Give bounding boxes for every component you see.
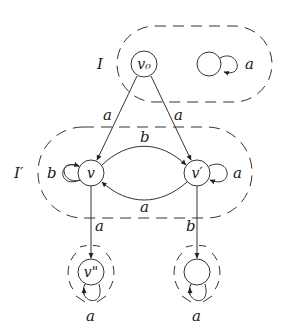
edge-vdprime-loop: [83, 284, 100, 301]
edge-vprime-ubottom-label: b: [186, 217, 196, 235]
node-u-bottom: [184, 259, 210, 285]
node-v-label: v: [87, 165, 95, 181]
node-v-dprime: v": [78, 259, 104, 285]
node-v-dprime-label: v": [84, 264, 98, 280]
edge-vprime-loop: [209, 164, 227, 182]
region-I-prime-label: I′: [13, 164, 24, 182]
edge-v0-vprime-label: a: [174, 106, 183, 124]
node-v-prime-label: v′: [191, 165, 203, 181]
edge-ubottom-loop-label: a: [192, 307, 201, 325]
node-v-prime: v′: [184, 160, 210, 186]
edge-utop-loop-label: a: [245, 55, 254, 73]
edges: a a a b a b a a b a a: [47, 55, 254, 325]
node-v0: v₀: [131, 51, 157, 77]
edge-vprime-loop-label: a: [233, 164, 242, 182]
node-v: v: [78, 160, 104, 186]
node-u-top: [197, 52, 221, 76]
region-I-label: I: [96, 55, 104, 73]
edge-vdprime-loop-ticks: [76, 296, 106, 302]
edge-v0-v-label: a: [103, 106, 112, 124]
edge-v-loop-label: b: [47, 164, 57, 182]
edge-v-vdprime-label: a: [95, 217, 104, 235]
edge-ubottom-loop: [189, 284, 206, 301]
edge-ubottom-loop-ticks: [182, 296, 212, 302]
edge-vprime-v-label: a: [140, 198, 149, 216]
edge-vdprime-loop-label: a: [86, 307, 95, 325]
edge-v-vprime-label: b: [140, 128, 150, 146]
automaton-diagram: I I′ a a a b a b: [0, 0, 288, 333]
edge-utop-loop: [220, 56, 237, 73]
node-v0-label: v₀: [137, 56, 151, 72]
edge-v-vprime: [102, 146, 186, 165]
